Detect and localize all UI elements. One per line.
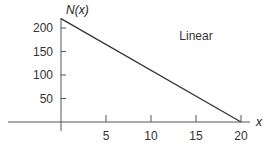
x-tick-label: 5 (103, 129, 110, 143)
y-axis-label: N(x) (66, 3, 89, 17)
x-axis-label: x (255, 115, 263, 129)
y-tick-label: 50 (40, 92, 54, 106)
annotation-linear: Linear (179, 29, 212, 43)
x-tick-label: 10 (144, 129, 158, 143)
x-tick-label: 20 (234, 129, 248, 143)
y-tick-label: 200 (33, 21, 53, 35)
y-tick-label: 100 (33, 68, 53, 82)
y-tick-label: 150 (33, 45, 53, 59)
x-tick-label: 15 (189, 129, 203, 143)
series-line-linear (61, 19, 241, 122)
chart: 5101520 50100150200 x N(x) Linear (0, 0, 265, 150)
